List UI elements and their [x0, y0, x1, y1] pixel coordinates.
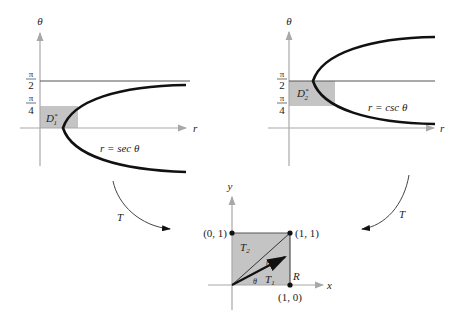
svg-text:2: 2 — [279, 79, 285, 91]
svg-text:π: π — [280, 93, 285, 103]
svg-text:4: 4 — [279, 104, 285, 116]
point-label-1-0: (1, 0) — [278, 291, 302, 304]
right-tick-pi-over-2: π 2 — [277, 69, 287, 91]
svg-text:π: π — [29, 69, 34, 79]
point-label-0-1: (0, 1) — [203, 227, 227, 240]
right-r-axis-label: r — [440, 122, 445, 134]
map-arrow-left: T — [113, 181, 170, 229]
y-axis-label: y — [227, 180, 233, 192]
right-theta-axis-label: θ — [286, 15, 292, 27]
point-label-1-1: (1, 1) — [295, 227, 319, 240]
svg-text:2: 2 — [28, 79, 34, 91]
left-plot: θ r π 2 π 4 D*1 r = sec θ — [20, 15, 198, 172]
right-curve-label: r = csc θ — [368, 101, 408, 113]
svg-text:π: π — [280, 69, 285, 79]
bottom-plot: y x (0, 1) (1, 1) (1, 0) T2 T1 R r θ — [203, 180, 332, 310]
point-1-0 — [287, 282, 292, 287]
point-1-1 — [287, 230, 292, 235]
right-tick-pi-over-4: π 4 — [277, 93, 287, 116]
left-curve-label: r = sec θ — [100, 142, 140, 154]
svg-text:T: T — [117, 211, 124, 223]
left-tick-pi-over-2: π 2 — [26, 69, 36, 91]
svg-text:4: 4 — [28, 104, 34, 116]
point-0-1 — [229, 230, 234, 235]
left-theta-axis-label: θ — [37, 15, 43, 27]
right-plot: θ r π 2 π 4 D*2 r = csc θ — [268, 15, 445, 166]
svg-text:T: T — [399, 208, 406, 220]
left-tick-pi-over-4: π 4 — [26, 93, 36, 116]
polar-change-of-variables-diagram: θ r π 2 π 4 D*1 r = sec θ θ r π 2 π — [0, 0, 463, 322]
right-shaded-region-d2 — [289, 81, 335, 106]
angle-theta-label: θ — [253, 277, 257, 286]
map-arrow-right: T — [362, 175, 409, 229]
left-r-axis-label: r — [193, 122, 198, 134]
region-r-label: R — [292, 270, 300, 282]
svg-text:π: π — [29, 93, 34, 103]
x-axis-label: x — [326, 279, 332, 291]
